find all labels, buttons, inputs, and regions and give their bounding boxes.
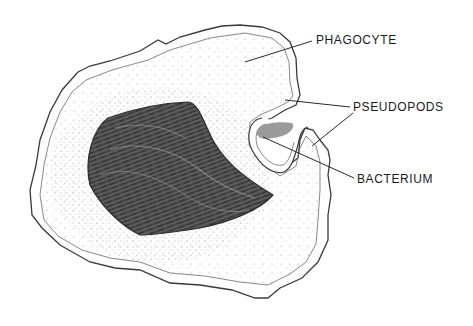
label-bacterium: BACTERIUM: [357, 172, 433, 186]
label-pseudopods: PSEUDOPODS: [353, 100, 444, 114]
phagocytosis-diagram: PHAGOCYTE PSEUDOPODS BACTERIUM: [0, 0, 473, 326]
leader-line-pseudopod-lower: [312, 113, 353, 146]
label-phagocyte: PHAGOCYTE: [316, 33, 397, 47]
diagram-illustration: [0, 0, 473, 326]
